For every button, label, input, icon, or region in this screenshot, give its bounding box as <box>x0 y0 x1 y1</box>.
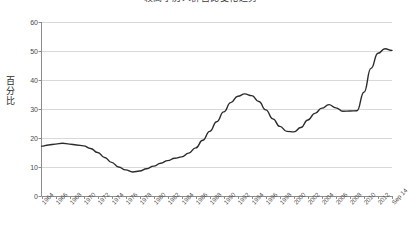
data-series-line <box>42 49 393 172</box>
gridlines <box>42 23 393 168</box>
